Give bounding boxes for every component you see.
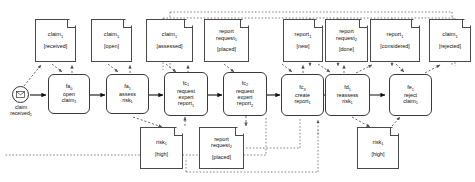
object-node-risk1-high-right[interactable]: risk1 [high] [357, 127, 399, 169]
doc-fold-icon [411, 20, 419, 28]
activity-id: fc2 [242, 80, 248, 87]
object-state: [high] [155, 151, 168, 158]
start-label-sub: 1 [30, 113, 32, 117]
object-node-report-request2-done[interactable]: report request2 [done] [325, 19, 368, 62]
object-name: report request1 [216, 28, 237, 42]
object-name: risk1 [373, 139, 384, 147]
object-state: [new] [297, 43, 310, 50]
object-state: [open] [104, 43, 119, 50]
activity-fc1-request-expert-report[interactable]: fc1 request expert report1 [164, 72, 208, 116]
activity-fc2-request-expert-report[interactable]: fc2 request expert report2 [223, 72, 267, 116]
doc-fold-icon [67, 20, 75, 28]
object-node-claim-rejected[interactable]: claim1 [rejected] [429, 19, 471, 62]
activity-id: fc1 [183, 80, 189, 87]
object-node-claim-open[interactable]: claim1 [open] [91, 19, 132, 62]
activity-id: fe1 [407, 84, 414, 91]
object-name: claim1 [442, 31, 457, 39]
object-node-claim-assessed[interactable]: claim1 [assessed] [146, 19, 193, 62]
activity-label: request expert report2 [236, 88, 254, 108]
activity-id: fd1 [344, 84, 351, 91]
activity-label: create report1 [294, 92, 310, 106]
activity-label: reject claim1 [403, 92, 418, 106]
start-event-label: claim received1 [4, 104, 38, 117]
start-label-line2: received [10, 110, 30, 116]
object-state: [assessed] [157, 43, 183, 50]
doc-fold-icon [123, 20, 131, 28]
object-state: [done] [339, 46, 354, 53]
envelope-icon [16, 91, 25, 98]
object-name: claim1 [48, 31, 63, 39]
activity-label: request expert report1 [177, 88, 195, 108]
object-state: [considered] [380, 43, 409, 50]
activity-label: assess risk1 [119, 91, 136, 105]
object-name: report request2 [211, 136, 232, 150]
activity-fd1-reassess-risk[interactable]: fd1 reassess risk1 [325, 74, 370, 116]
object-name: risk1 [156, 139, 167, 147]
object-node-report1-new[interactable]: report1 [new] [283, 19, 323, 62]
object-name: claim1 [104, 31, 119, 39]
object-node-report-request1-placed[interactable]: report request1 [placed] [204, 19, 249, 62]
activity-fc3-create-report[interactable]: fc3 create report1 [281, 74, 324, 116]
object-node-report1-considered[interactable]: report1 [considered] [370, 19, 420, 62]
doc-fold-icon [174, 128, 182, 136]
object-state: [high] [371, 151, 384, 158]
diagram-canvas: claim received1 claim1 [received] claim1… [0, 0, 475, 182]
object-name: report1 [295, 31, 312, 39]
doc-fold-icon [235, 128, 243, 136]
object-name: claim1 [162, 31, 177, 39]
activity-id: fc3 [299, 84, 305, 91]
object-state: [placed] [217, 46, 236, 53]
doc-fold-icon [184, 20, 192, 28]
activity-id: fa0 [66, 83, 73, 90]
activity-fe1-reject-claim[interactable]: fe1 reject claim1 [389, 74, 432, 116]
object-name: report1 [387, 31, 404, 39]
start-event[interactable] [12, 86, 29, 103]
activity-id: fa1 [124, 83, 131, 90]
doc-fold-icon [359, 20, 367, 28]
object-node-risk1-high-left[interactable]: risk1 [high] [140, 127, 183, 169]
object-state: [rejected] [439, 43, 461, 50]
activity-fa1-assess-risk[interactable]: fa1 assess risk1 [106, 74, 149, 114]
doc-fold-icon [390, 128, 398, 136]
activity-label: reassess risk1 [337, 92, 359, 106]
activity-label: open claim1 [62, 91, 77, 105]
object-node-report-request2-placed[interactable]: report request2 [placed] [199, 127, 244, 169]
object-name: report request2 [336, 28, 357, 42]
doc-fold-icon [462, 20, 470, 28]
doc-fold-icon [314, 20, 322, 28]
start-label-line1: claim [15, 104, 27, 110]
object-state: [placed] [212, 154, 231, 161]
doc-fold-icon [240, 20, 248, 28]
object-node-claim-received[interactable]: claim1 [received] [35, 19, 76, 62]
activity-fa0-open-claim[interactable]: fa0 open claim1 [48, 74, 90, 114]
object-state: [received] [44, 43, 67, 50]
